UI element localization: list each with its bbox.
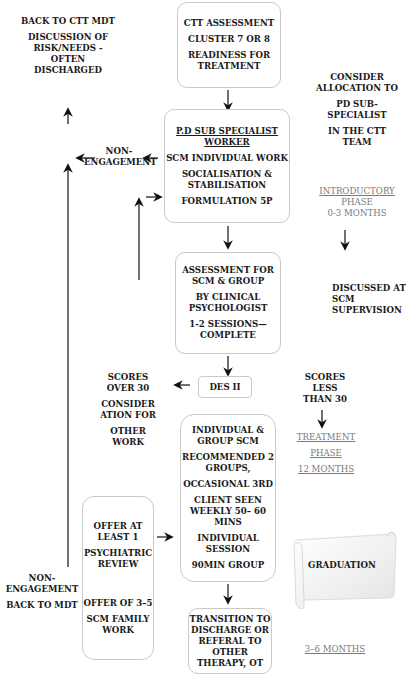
psychiatric-review-text: PSYCHIATRIC REVIEW (83, 548, 153, 570)
back-to-mdt-text: BACK TO MDT (4, 600, 80, 611)
discussed-supervision-label: DISCUSSED AT SCM SUPERVISION (332, 283, 407, 316)
scores-over-label: SCORES OVER 30 CONSIDER ATION FOR OTHER … (96, 372, 160, 448)
treatment-phase-text: PHASE (294, 448, 358, 459)
other-work-text: OTHER WORK (96, 426, 160, 448)
assessment-scm-text: ASSESSMENT FOR SCM & GROUP (176, 265, 280, 287)
pd-sub-specialist-text: PD SUB- SPECIALIST (316, 99, 398, 121)
scores-less-label: SCORES LESS THAN 30 (298, 372, 352, 405)
introductory-months-text: 0-3 MONTHS (314, 208, 400, 219)
offer-at-least-text: OFFER AT LEAST 1 (83, 521, 153, 543)
client-seen-text: CLIENT SEEN WEEKLY 50– 60 MINS (181, 495, 275, 528)
scm-family-work-text: SCM FAMILY WORK (83, 614, 153, 636)
graduation-scroll: GRADUATION (290, 528, 398, 610)
offer-of-text: OFFER OF 3–5 (83, 598, 152, 609)
graduation-text: GRADUATION (290, 560, 394, 571)
ctt-team-text: IN THE CTT TEAM (316, 126, 398, 148)
treatment-text: TREATMENT (294, 432, 358, 443)
des-ii-text: DES II (209, 382, 240, 393)
individual-group-text: INDIVIDUAL & GROUP SCM (181, 425, 275, 447)
individual-session-text: INDIVIDUAL SESSION (181, 533, 275, 555)
sessions-text: 1-2 SESSIONS— COMPLETE (176, 319, 280, 341)
clinical-psychologist-text: BY CLINICAL PSYCHOLOGIST (176, 292, 280, 314)
individual-group-box: INDIVIDUAL & GROUP SCM RECOMMENDED 2 GRO… (180, 414, 276, 582)
pd-worker-title: P.D SUB SPECIALIST WORKER (165, 126, 289, 148)
non-engagement-bottom-label: NON- ENGAGEMENT BACK TO MDT (4, 573, 80, 611)
consider-allocation-text: CONSIDER ALLOCATION TO (316, 72, 398, 94)
discussion-risk-text: DISCUSSION OF RISK/NEEDS - OFTEN DISCHAR… (18, 32, 118, 76)
assessment-scm-box: ASSESSMENT FOR SCM & GROUP BY CLINICAL P… (175, 252, 281, 354)
formulation-text: FORMULATION 5P (181, 196, 272, 207)
offer-box: OFFER AT LEAST 1 PSYCHIATRIC REVIEW OFFE… (82, 496, 154, 660)
recommended-text: RECOMMENDED 2 GROUPS, (181, 452, 275, 474)
consideration-text: CONSIDER ATION FOR (96, 399, 160, 421)
non-engagement-bottom-text: NON- ENGAGEMENT (4, 573, 80, 595)
introductory-phase-label: INTRODUCTORY PHASE 0-3 MONTHS (314, 186, 400, 219)
occasional-text: OCCASIONAL 3RD (183, 479, 273, 490)
ctt-assessment-title: CTT ASSESSMENT (184, 18, 274, 29)
treatment-phase-label: TREATMENT PHASE 12 MONTHS (294, 432, 358, 475)
scm-individual-work: SCM INDIVIDUAL WORK (166, 153, 288, 164)
non-engagement-top-label: NON- ENGAGEMENT (84, 146, 154, 168)
group-duration-text: 90MIN GROUP (192, 560, 264, 571)
introductory-phase-text: PHASE (314, 197, 400, 208)
scores-over-text: SCORES OVER 30 (96, 372, 160, 394)
transition-box: TRANSITION TO DISCHARGE OR REFERAL TO OT… (188, 608, 272, 674)
treatment-months-text: 12 MONTHS (294, 464, 358, 475)
back-to-ctt-text: BACK TO CTT MDT (18, 16, 118, 27)
transition-text: TRANSITION TO DISCHARGE OR REFERAL TO OT… (189, 614, 271, 669)
cluster-text: CLUSTER 7 OR 8 (188, 34, 270, 45)
readiness-text: READINESS FOR TREATMENT (178, 50, 280, 72)
consider-allocation-label: CONSIDER ALLOCATION TO PD SUB- SPECIALIS… (316, 72, 398, 148)
months-3-6-label: 3–6 MONTHS (300, 644, 370, 655)
des-ii-box: DES II (198, 376, 252, 398)
introductory-text: INTRODUCTORY (314, 186, 400, 197)
ctt-assessment-box: CTT ASSESSMENT CLUSTER 7 OR 8 READINESS … (177, 2, 281, 88)
pd-worker-box: P.D SUB SPECIALIST WORKER SCM INDIVIDUAL… (164, 109, 290, 223)
socialisation-text: SOCIALISATION & STABILISATION (165, 169, 289, 191)
back-to-ctt-label: BACK TO CTT MDT DISCUSSION OF RISK/NEEDS… (18, 16, 118, 76)
